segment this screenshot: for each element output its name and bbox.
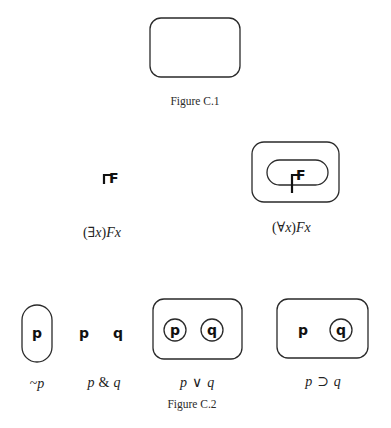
var-p: p [32, 325, 42, 341]
universal-graph: F (∀x)Fx [252, 142, 339, 236]
figure-c1: Figure C.1 [150, 18, 240, 108]
var-p: p [170, 322, 180, 338]
var-p: p [298, 322, 308, 338]
empty-sheet-box [150, 18, 240, 77]
var-p: p [79, 325, 89, 341]
existential-graph: F (∃x)Fx [83, 170, 122, 241]
conjunction-label: p&q [87, 375, 121, 390]
diagram-canvas: Figure C.1 F (∃x)Fx F (∀x)Fx p ~p p q p&… [0, 0, 391, 428]
predicate-f: F [109, 170, 119, 186]
figure-c2-caption: Figure C.2 [167, 398, 216, 411]
existential-label: (∃x)Fx [83, 225, 122, 241]
disjunction-graph: p q p∨q [153, 299, 242, 390]
predicate-f: F [296, 167, 306, 183]
conjunction-graph: p q p&q [79, 325, 123, 390]
var-q: q [113, 325, 123, 341]
var-q: q [336, 322, 346, 338]
disjunction-label: p∨q [179, 375, 214, 390]
figure-c1-caption: Figure C.1 [170, 95, 219, 108]
var-q: q [207, 322, 217, 338]
outer-cut [277, 299, 368, 358]
implication-label: p⊃q [304, 374, 341, 389]
implication-graph: p q p⊃q [277, 299, 368, 389]
universal-label: (∀x)Fx [272, 220, 312, 236]
outer-cut [153, 299, 242, 359]
negation-label: ~p [30, 376, 45, 391]
negation-graph: p ~p [22, 305, 52, 391]
